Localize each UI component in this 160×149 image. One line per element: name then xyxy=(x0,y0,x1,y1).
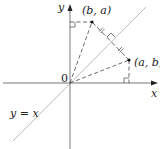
dashed-origin-to-ab xyxy=(70,60,129,83)
point-ba-label: (b, a) xyxy=(82,5,111,16)
y-axis-arrow-icon xyxy=(68,4,73,11)
point-ba xyxy=(90,20,93,23)
dashed-origin-to-ba xyxy=(70,22,92,83)
right-angle-marker-diagonal xyxy=(107,33,115,37)
right-angle-marker-x xyxy=(124,78,129,83)
right-angle-marker-y xyxy=(70,22,75,27)
x-axis-label: x xyxy=(151,88,157,99)
origin-label: 0 xyxy=(61,73,68,84)
point-ab xyxy=(127,58,130,61)
line-label: y = x xyxy=(10,108,39,119)
line-y-equals-x xyxy=(13,7,146,141)
y-axis-label: y xyxy=(58,2,64,13)
segment-ba-to-ab xyxy=(92,22,129,60)
reflection-diagram xyxy=(0,0,160,149)
point-ab-label: (a, b) xyxy=(134,57,160,68)
x-axis-arrow-icon xyxy=(151,81,158,86)
